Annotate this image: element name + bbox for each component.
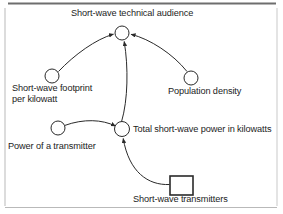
node-total-circle[interactable] (115, 122, 130, 137)
node-power-circle[interactable] (51, 121, 65, 135)
node-footprint-circle[interactable] (45, 69, 59, 83)
link-footprint-to-audience (59, 34, 114, 71)
diagram-nodes (45, 26, 198, 195)
node-label-power: Power of a transmitter (8, 141, 96, 152)
node-audience-circle[interactable] (115, 26, 129, 40)
node-transmitters-box[interactable] (170, 176, 193, 195)
node-label-transmitters: Short-wave transmitters (133, 194, 228, 205)
link-total-to-audience (122, 42, 127, 122)
node-label-footprint-line2: per kilowatt (12, 94, 57, 104)
diagram-graphics (0, 0, 283, 214)
diagram-canvas: Short-wave technical audience Short-wave… (0, 0, 283, 214)
link-power-to-total (65, 121, 116, 126)
node-label-total: Total short-wave power in kilowatts (133, 124, 271, 135)
node-label-audience: Short-wave technical audience (71, 8, 193, 19)
diagram-frame (5, 4, 277, 208)
link-population-to-audience (131, 34, 187, 71)
node-population-circle[interactable] (184, 71, 198, 85)
link-transmitters-to-total (123, 139, 169, 185)
node-label-footprint: Short-wave footprintper kilowatt (12, 83, 132, 104)
node-label-population: Population density (168, 86, 241, 97)
node-label-footprint-line1: Short-wave footprint (12, 83, 92, 93)
diagram-links (59, 34, 188, 184)
